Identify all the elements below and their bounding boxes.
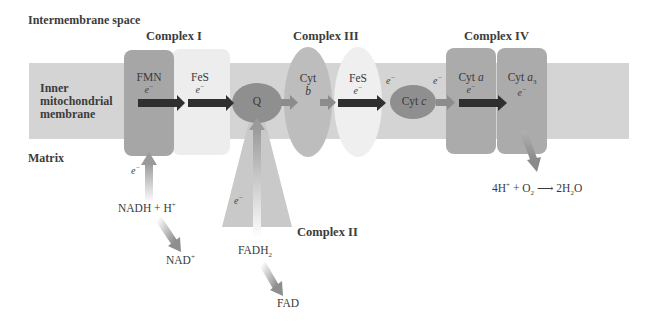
nad-plus-label: NAD+ <box>166 253 195 266</box>
complex-i-label: Complex I <box>146 29 202 44</box>
electron-transport-graphics <box>0 0 653 324</box>
fadh2-electron-arrow-shaft <box>253 128 261 238</box>
water-formation-equation: 4H+ + O2 ⟶ 2H2O <box>492 181 582 197</box>
cyta3-to-oxygen-arrowhead <box>527 157 541 172</box>
cyt-a3-label: Cyt a3 e− <box>497 71 547 99</box>
fadh2-label: FADH2 <box>238 244 272 259</box>
cyt-b-label: Cyt b <box>292 72 324 98</box>
electron-label-cytc-out: e− <box>433 74 442 86</box>
electron-label-nadh: e− <box>131 164 140 176</box>
fes-complex-i-label: FeS e− <box>176 71 224 95</box>
inner-membrane-label: Inner mitochondrial membrane <box>40 82 113 121</box>
complex-ii-label: Complex II <box>297 225 358 240</box>
electron-label-fadh2: e− <box>234 194 243 206</box>
fad-label: FAD <box>277 297 299 309</box>
fes-complex-iii-label: FeS e− <box>340 72 376 96</box>
intermembrane-space-label: Intermembrane space <box>28 13 140 28</box>
electron-label-cytc-in: e− <box>386 74 395 86</box>
nadh-electron-arrow-shaft <box>145 163 153 203</box>
cyt-a-label: Cyt a e− <box>446 71 496 95</box>
complex-iii-label: Complex III <box>293 29 359 44</box>
nadh-to-nad-arrow <box>158 218 174 242</box>
cyt-c-label: Cyt c <box>396 95 432 107</box>
nadh-label: NADH + H+ <box>118 201 176 214</box>
complex-iv-label: Complex IV <box>464 29 529 44</box>
q-label: Q <box>247 95 267 107</box>
fmn-label: FMN e− <box>124 71 174 95</box>
matrix-label: Matrix <box>28 151 64 166</box>
fadh2-to-fad-arrow <box>262 263 276 287</box>
membrane-label-line3: membrane <box>40 108 113 121</box>
